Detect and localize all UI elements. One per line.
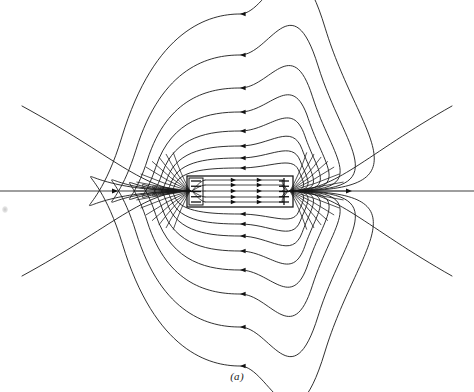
pole-fan-left	[152, 162, 190, 191]
field-arrowhead	[231, 178, 236, 182]
field-arrowhead	[240, 234, 246, 239]
field-arrowhead	[257, 178, 262, 182]
field-arrowhead	[346, 188, 352, 193]
magnetic-field-diagram	[0, 0, 474, 392]
field-arrowhead	[240, 212, 246, 217]
field-arrowhead	[240, 364, 246, 369]
field-arrowhead	[240, 110, 246, 115]
field-arrowhead	[257, 200, 262, 204]
field-lines-group	[0, 0, 474, 392]
loop-top-3	[161, 136, 314, 195]
field-arrowhead	[231, 189, 236, 193]
open-line-lower-left	[22, 191, 190, 276]
open-line-upper-right	[290, 106, 452, 191]
loop-bottom-6	[129, 182, 340, 316]
field-arrowhead	[231, 183, 236, 187]
field-arrowhead	[240, 86, 246, 91]
field-arrowhead	[240, 166, 246, 171]
field-arrowhead	[240, 144, 246, 149]
field-arrowhead	[257, 183, 262, 187]
field-arrowhead	[240, 222, 246, 227]
field-arrowhead	[240, 268, 246, 273]
field-arrowhead	[240, 156, 246, 161]
field-arrowhead	[240, 325, 246, 330]
field-arrowhead	[240, 129, 246, 134]
figure-root: (a)	[0, 0, 474, 392]
figure-caption: (a)	[0, 370, 474, 382]
interior-field-group	[192, 180, 288, 202]
field-arrowhead	[231, 195, 236, 199]
loop-top-6	[129, 66, 340, 200]
open-line-lower-right	[290, 191, 452, 276]
field-arrowhead	[231, 200, 236, 204]
field-arrowhead	[257, 195, 262, 199]
loop-bottom-3	[161, 187, 314, 246]
field-arrowhead	[240, 53, 246, 58]
field-arrowhead	[257, 189, 262, 193]
field-arrowhead	[240, 249, 246, 254]
field-arrowhead	[240, 292, 246, 297]
field-arrowhead	[240, 12, 246, 17]
pole-fan-left	[152, 191, 190, 220]
